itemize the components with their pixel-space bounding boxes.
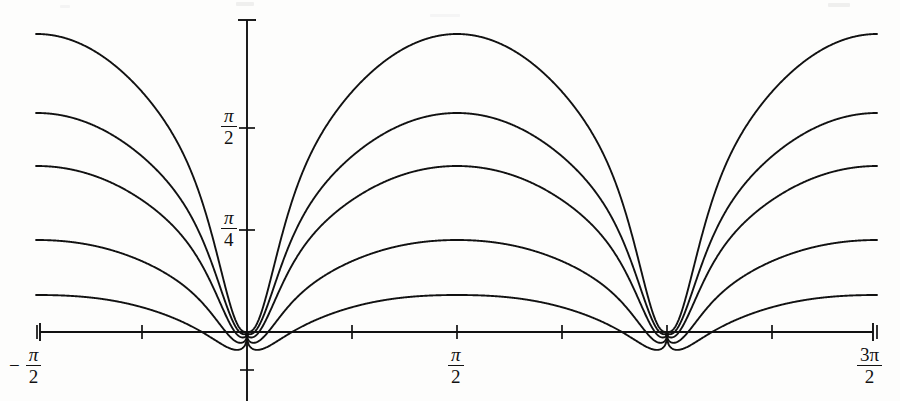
fraction-denominator: 2	[448, 366, 464, 386]
plot-svg	[0, 0, 900, 401]
fraction-pi-over-2: π 2	[448, 345, 464, 386]
fraction-denominator: 4	[221, 229, 237, 249]
fraction-numerator: 3π	[857, 345, 882, 366]
x-tick-label-pi-over-2: π 2	[448, 345, 464, 386]
curve-family	[36, 34, 877, 350]
fraction-pi-over-2: π 2	[26, 345, 42, 386]
fraction-denominator: 2	[26, 366, 42, 386]
fraction-numerator: π	[448, 345, 464, 366]
fraction-numerator: π	[221, 106, 237, 127]
fraction-numerator: π	[221, 208, 237, 229]
y-tick-label-pi-over-2: π 2	[221, 106, 237, 147]
curve-3	[36, 166, 877, 338]
curve-2	[36, 113, 877, 334]
y-tick-label-pi-over-4: π 4	[221, 208, 237, 249]
x-tick-label-three-pi-over-2: 3π 2	[857, 345, 882, 386]
fraction-three-pi-over-2: 3π 2	[857, 345, 882, 386]
figure-canvas: π 2 π 4 − π 2 π 2 3π 2	[0, 0, 900, 401]
curve-5	[36, 295, 877, 350]
fraction-pi-over-2: π 2	[221, 106, 237, 147]
fraction-denominator: 2	[221, 127, 237, 147]
fraction-denominator: 2	[857, 366, 882, 386]
fraction-numerator: π	[26, 345, 42, 366]
curve-1	[36, 34, 877, 332]
x-tick-label-negative-pi-over-2: − π 2	[9, 345, 41, 386]
minus-sign: −	[9, 356, 22, 375]
fraction-pi-over-4: π 4	[221, 208, 237, 249]
